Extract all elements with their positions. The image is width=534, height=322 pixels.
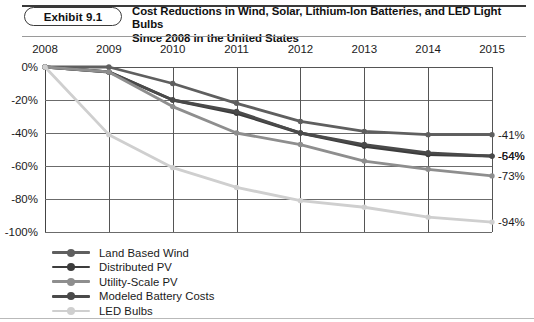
chart-legend: Land Based WindDistributed PVUtility-Sca… — [0, 246, 534, 316]
exhibit-number-label: Exhibit 9.1 — [44, 11, 103, 23]
series-data-point — [298, 119, 303, 124]
series-data-point — [234, 101, 239, 106]
series-data-point — [425, 167, 430, 172]
legend-color-swatch — [52, 247, 90, 258]
x-axis-tick-label: 2015 — [479, 43, 505, 55]
y-axis-tick-label: -100% — [5, 226, 38, 238]
series-end-label: -41% — [498, 129, 525, 141]
exhibit-header: Exhibit 9.1 Cost Reductions in Wind, Sol… — [0, 0, 534, 38]
series-data-point — [170, 81, 175, 86]
legend-item[interactable]: Land Based Wind — [52, 246, 189, 259]
line-chart: 20082009201020112012201320142015 0%-20%-… — [0, 38, 534, 246]
series-lines — [45, 67, 492, 232]
x-axis-tick-label: 2014 — [415, 43, 441, 55]
x-axis-tick-label: 2008 — [32, 43, 58, 55]
x-axis-tick-label: 2012 — [288, 43, 314, 55]
series-data-point — [106, 64, 111, 69]
series-data-point — [170, 165, 175, 170]
legend-color-swatch — [52, 262, 90, 273]
legend-item-label: LED Bulbs — [99, 305, 153, 317]
series-data-point — [170, 104, 175, 109]
legend-item-label: Modeled Battery Costs — [99, 290, 214, 302]
series-data-point — [234, 109, 239, 114]
legend-item-label: Distributed PV — [99, 261, 172, 273]
plot-area: 20082009201020112012201320142015 0%-20%-… — [45, 67, 492, 232]
series-data-point — [234, 130, 239, 135]
series-data-point — [362, 205, 367, 210]
gridline-horizontal — [45, 232, 492, 233]
exhibit-number-badge: Exhibit 9.1 — [24, 7, 122, 26]
footer-rule — [0, 318, 534, 319]
series-end-label: -64% — [498, 150, 525, 162]
series-data-point — [489, 153, 494, 158]
x-axis-tick-label: 2013 — [351, 43, 377, 55]
series-data-point — [489, 219, 494, 224]
series-line — [45, 67, 492, 222]
legend-item[interactable]: Modeled Battery Costs — [52, 290, 214, 303]
series-data-point — [362, 129, 367, 134]
series-data-point — [106, 132, 111, 137]
legend-item[interactable]: LED Bulbs — [52, 304, 153, 317]
series-data-point — [362, 142, 367, 147]
page-title-line-1: Cost Reductions in Wind, Solar, Lithium-… — [132, 5, 524, 32]
legend-item[interactable]: Distributed PV — [52, 261, 172, 274]
series-data-point — [42, 64, 47, 69]
y-axis-tick-label: -60% — [11, 160, 38, 172]
x-axis-tick-label: 2011 — [224, 43, 249, 55]
series-data-point — [489, 132, 494, 137]
legend-item[interactable]: Utility-Scale PV — [52, 275, 178, 288]
legend-color-swatch — [52, 305, 90, 316]
legend-color-swatch — [52, 276, 90, 287]
series-data-point — [170, 97, 175, 102]
gridline-vertical — [492, 67, 493, 232]
series-data-point — [425, 150, 430, 155]
series-end-label: -94% — [498, 216, 525, 228]
y-axis-tick-label: -20% — [11, 94, 38, 106]
series-data-point — [425, 214, 430, 219]
legend-item-label: Utility-Scale PV — [99, 276, 178, 288]
x-axis-tick-label: 2009 — [96, 43, 122, 55]
y-axis-tick-label: -80% — [11, 193, 38, 205]
x-axis-tick-label: 2010 — [160, 43, 186, 55]
series-data-point — [234, 185, 239, 190]
series-data-point — [362, 158, 367, 163]
legend-color-swatch — [52, 291, 90, 302]
series-data-point — [489, 173, 494, 178]
y-axis-tick-label: -40% — [11, 127, 38, 139]
series-data-point — [298, 198, 303, 203]
series-end-label: -73% — [498, 170, 525, 182]
series-data-point — [106, 69, 111, 74]
y-axis-tick-label: 0% — [21, 61, 38, 73]
series-data-point — [298, 130, 303, 135]
series-data-point — [425, 132, 430, 137]
series-data-point — [298, 142, 303, 147]
legend-item-label: Land Based Wind — [99, 247, 189, 259]
